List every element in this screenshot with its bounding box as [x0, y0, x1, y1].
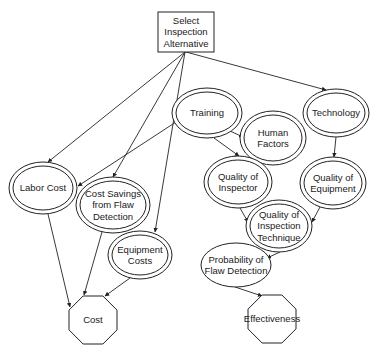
node-decision[interactable]: SelectInspectionAlternative — [158, 12, 214, 52]
node-quality-equipment[interactable]: Quality ofEquipment — [300, 157, 366, 209]
edge-quality-equipment-to-quality-technique — [312, 207, 320, 222]
nodes-layer: SelectInspectionAlternativeLabor CostCos… — [9, 12, 369, 344]
edge-equipment-costs-to-cost — [105, 278, 130, 296]
edge-training-to-labor-cost — [78, 122, 176, 186]
node-technology[interactable]: Technology — [303, 89, 369, 137]
edge-technology-to-quality-equipment — [334, 137, 336, 157]
node-equipment-costs[interactable]: EquipmentCosts — [108, 231, 172, 279]
node-label: Alternative — [164, 38, 209, 49]
node-label: Effectiveness — [244, 313, 301, 324]
edge-training-to-quality-inspector — [214, 138, 239, 156]
node-label: Costs — [128, 255, 153, 266]
node-label: Technique — [257, 232, 300, 243]
node-label: Quality of — [259, 209, 299, 220]
node-quality-inspector[interactable]: Quality ofInspector — [204, 156, 272, 208]
node-label: Detection — [93, 211, 133, 222]
node-training[interactable]: Training — [172, 88, 242, 138]
edge-prob-detection-to-effectiveness — [235, 287, 262, 296]
node-label: Equipment — [310, 183, 356, 194]
node-label: Cost — [83, 314, 103, 325]
node-label: Technology — [312, 107, 360, 118]
node-quality-technique[interactable]: Quality ofInspectionTechnique — [246, 200, 312, 252]
node-label: Inspector — [218, 182, 257, 193]
node-label: Labor Cost — [20, 182, 67, 193]
node-label: Human — [258, 127, 289, 138]
node-label: Training — [190, 107, 224, 118]
node-label: Equipment — [117, 244, 163, 255]
node-label: Probability of — [209, 254, 264, 265]
edge-decision-to-technology — [186, 52, 326, 90]
node-label: Quality of — [218, 171, 258, 182]
influence-diagram: SelectInspectionAlternativeLabor CostCos… — [0, 0, 380, 359]
node-label: Factors — [257, 138, 289, 149]
node-cost[interactable]: Cost — [69, 296, 117, 344]
node-label: Inspection — [257, 220, 300, 231]
node-label: Select — [173, 15, 200, 26]
node-label: Inspection — [164, 26, 207, 37]
node-label: Quality of — [313, 172, 353, 183]
edge-decision-to-equipment-costs — [155, 52, 185, 232]
node-label: Cost Savings — [85, 188, 141, 199]
node-cost-savings[interactable]: Cost Savingsfrom FlawDetection — [76, 177, 150, 233]
node-human-factors[interactable]: HumanFactors — [240, 111, 306, 165]
edge-decision-to-labor-cost — [48, 52, 185, 162]
node-prob-detection[interactable]: Probability ofFlaw Detection — [201, 243, 271, 287]
edge-labor-cost-to-cost — [48, 214, 70, 307]
node-label: Flaw Detection — [205, 265, 268, 276]
node-effectiveness[interactable]: Effectiveness — [244, 295, 301, 343]
edge-cost-savings-to-cost — [84, 232, 102, 295]
node-label: from Flaw — [92, 199, 134, 210]
node-labor-cost[interactable]: Labor Cost — [9, 162, 77, 214]
